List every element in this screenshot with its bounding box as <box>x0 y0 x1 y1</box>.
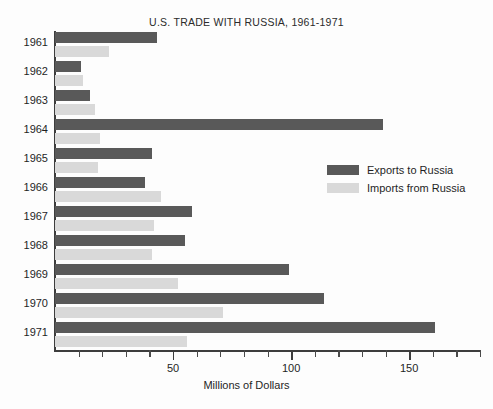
x-tick-minor-130 <box>362 350 363 357</box>
bar-exports-1965 <box>55 148 152 159</box>
x-tick-minor-80 <box>244 350 245 357</box>
y-axis-label-1969: 1969 <box>2 268 48 280</box>
bar-group <box>55 235 480 264</box>
x-tick-minor-90 <box>268 350 269 357</box>
x-tick-minor-40 <box>149 350 150 357</box>
x-tick-major-100 <box>291 350 292 360</box>
y-axis-label-1970: 1970 <box>2 297 48 309</box>
bar-imports-1969 <box>55 278 178 289</box>
bar-group <box>55 322 480 351</box>
y-axis-label-1966: 1966 <box>2 181 48 193</box>
bar-group <box>55 293 480 322</box>
y-axis-label-1971: 1971 <box>2 326 48 338</box>
y-axis-label-1964: 1964 <box>2 123 48 135</box>
legend-entry-imports: Imports from Russia <box>327 181 465 195</box>
x-tick-minor-20 <box>102 350 103 357</box>
bar-imports-1967 <box>55 220 154 231</box>
y-axis-label-1968: 1968 <box>2 239 48 251</box>
bar-group <box>55 61 480 90</box>
x-tick-minor-120 <box>338 350 339 357</box>
bar-imports-1965 <box>55 162 98 173</box>
legend-entry-exports: Exports to Russia <box>327 163 465 177</box>
bar-exports-1963 <box>55 90 90 101</box>
x-tick-minor-10 <box>79 350 80 357</box>
bar-group <box>55 90 480 119</box>
bar-imports-1968 <box>55 249 152 260</box>
y-axis-label-1962: 1962 <box>2 65 48 77</box>
x-axis-title: Millions of Dollars <box>0 379 493 391</box>
bar-exports-1961 <box>55 32 157 43</box>
bar-exports-1964 <box>55 119 383 130</box>
chart-legend: Exports to RussiaImports from Russia <box>327 163 465 199</box>
bar-imports-1964 <box>55 133 100 144</box>
bar-imports-1971 <box>55 336 187 347</box>
legend-label-imports: Imports from Russia <box>367 182 465 194</box>
bar-imports-1966 <box>55 191 161 202</box>
x-tick-label-100: 100 <box>282 362 300 374</box>
x-tick-minor-60 <box>197 350 198 357</box>
bar-group <box>55 32 480 61</box>
bar-imports-1970 <box>55 307 223 318</box>
bar-exports-1968 <box>55 235 185 246</box>
bar-group <box>55 119 480 148</box>
x-tick-minor-170 <box>456 350 457 357</box>
bar-exports-1970 <box>55 293 324 304</box>
x-tick-major-50 <box>173 350 174 360</box>
legend-label-exports: Exports to Russia <box>367 164 453 176</box>
x-tick-label-150: 150 <box>400 362 418 374</box>
bar-imports-1961 <box>55 46 109 57</box>
bar-exports-1962 <box>55 61 81 72</box>
x-tick-minor-140 <box>386 350 387 357</box>
x-tick-minor-30 <box>126 350 127 357</box>
y-axis-label-1965: 1965 <box>2 152 48 164</box>
bar-exports-1971 <box>55 322 435 333</box>
legend-swatch-exports <box>327 165 359 175</box>
bar-group <box>55 206 480 235</box>
y-axis-label-1961: 1961 <box>2 36 48 48</box>
x-tick-minor-180 <box>480 350 481 357</box>
x-tick-label-50: 50 <box>167 362 179 374</box>
bar-group <box>55 264 480 293</box>
x-tick-major-150 <box>409 350 410 360</box>
x-tick-minor-70 <box>220 350 221 357</box>
bar-exports-1967 <box>55 206 192 217</box>
bar-exports-1969 <box>55 264 289 275</box>
x-tick-minor-110 <box>315 350 316 357</box>
chart-title: U.S. TRADE WITH RUSSIA, 1961-1971 <box>0 16 493 28</box>
y-axis-label-1963: 1963 <box>2 94 48 106</box>
bar-imports-1962 <box>55 75 83 86</box>
y-axis-label-1967: 1967 <box>2 210 48 222</box>
bar-exports-1966 <box>55 177 145 188</box>
legend-swatch-imports <box>327 183 359 193</box>
y-axis-tick-labels: 1961196219631964196519661967196819691970… <box>0 31 48 350</box>
bar-imports-1963 <box>55 104 95 115</box>
chart-container: U.S. TRADE WITH RUSSIA, 1961-1971 196119… <box>0 0 493 409</box>
x-tick-minor-160 <box>433 350 434 357</box>
